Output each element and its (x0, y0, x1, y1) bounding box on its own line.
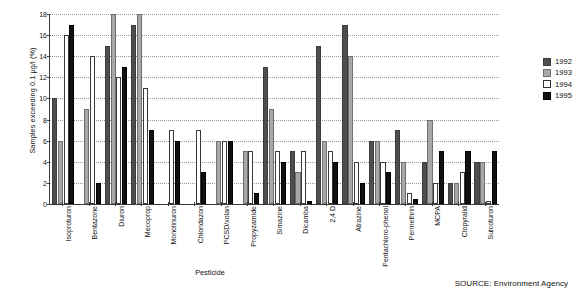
legend-label: 1992 (555, 57, 572, 66)
x-tick-label: Chloridazon (197, 206, 204, 243)
x-axis-title: Pesticide (0, 268, 420, 277)
legend-item-1992[interactable]: 1992 (543, 57, 572, 66)
plot-area: 024681012141618 (49, 14, 499, 205)
bar-1994 (460, 172, 465, 204)
x-label-slot: Mecoprop (128, 206, 154, 268)
y-tick-label: 16 (39, 32, 47, 39)
x-tick-mark (300, 202, 301, 206)
x-label-slot: Propyzamide (234, 206, 260, 268)
bar-1995 (254, 193, 259, 204)
bar-1994 (380, 162, 385, 204)
x-tick-mark (485, 202, 486, 206)
bar-group (182, 14, 208, 204)
bar-1992 (395, 130, 400, 204)
x-tick-label: Diuron (118, 206, 125, 227)
x-tick-mark (379, 202, 380, 206)
legend-swatch-icon (543, 92, 551, 100)
x-axis-labels: IsoproturonBentazoneDiuronMecopropMonoli… (49, 206, 498, 268)
x-label-slot: Bentazone (75, 206, 101, 268)
bar-1992 (474, 162, 479, 204)
bar-group (208, 14, 234, 204)
bar-group (129, 14, 155, 204)
bar-1995 (228, 141, 233, 204)
x-tick-label: Atrazine (355, 206, 362, 232)
x-label-slot: PCSD/xolan (207, 206, 233, 268)
bar-1993 (427, 120, 432, 204)
bar-1995 (386, 172, 391, 204)
bar-1992 (369, 141, 374, 204)
x-tick-mark (353, 202, 354, 206)
bar-groups (50, 14, 499, 204)
legend-item-1995[interactable]: 1995 (543, 91, 572, 100)
source-note: SOURCE: Environment Agency (455, 279, 568, 288)
bar-group (340, 14, 366, 204)
y-tick-label: 10 (39, 95, 47, 102)
bar-1994 (116, 77, 121, 204)
bar-1992 (342, 25, 347, 204)
bar-group (261, 14, 287, 204)
bar-group (103, 14, 129, 204)
x-tick-label: Propyzamide (250, 206, 257, 247)
x-label-slot: Monolinuron (155, 206, 181, 268)
bar-1992 (290, 151, 295, 204)
x-label-slot: Chloridazon (181, 206, 207, 268)
bar-group (288, 14, 314, 204)
bar-1993 (137, 14, 142, 204)
legend: 1992199319941995 (543, 57, 572, 100)
x-label-slot: Dicamba (287, 206, 313, 268)
x-tick-mark (221, 202, 222, 206)
legend-label: 1995 (555, 91, 572, 100)
x-tick-mark (168, 202, 169, 206)
y-tick-mark (47, 204, 50, 205)
legend-item-1993[interactable]: 1993 (543, 68, 572, 77)
x-tick-mark (458, 202, 459, 206)
x-tick-mark (432, 202, 433, 206)
bar-1994 (433, 183, 438, 204)
x-tick-label: Monolinuron (170, 206, 177, 245)
x-tick-mark (141, 202, 142, 206)
x-tick-label: Permethrin (408, 206, 415, 240)
x-tick-mark (326, 202, 327, 206)
bar-1994 (407, 193, 412, 204)
bar-1995 (413, 199, 418, 204)
x-tick-label: Isoproturon (65, 206, 72, 241)
legend-item-1994[interactable]: 1994 (543, 80, 572, 89)
x-label-slot: Permethrin (392, 206, 418, 268)
x-tick-label: Simazine (276, 206, 283, 235)
x-tick-mark (115, 202, 116, 206)
bar-1993 (243, 151, 248, 204)
y-tick-label: 12 (39, 74, 47, 81)
bar-1995 (492, 151, 497, 204)
bar-1992 (52, 98, 57, 204)
bar-1993 (375, 141, 380, 204)
bar-1995 (175, 141, 180, 204)
bar-1994 (248, 151, 253, 204)
legend-swatch-icon (543, 69, 551, 77)
x-tick-label: 2,4 D (329, 206, 336, 223)
x-tick-label: MCPA (434, 206, 441, 226)
x-label-slot: Clopyralid (445, 206, 471, 268)
x-label-slot: Pentachloro-phenol (366, 206, 392, 268)
x-label-slot: MCPA (419, 206, 445, 268)
bar-1994 (90, 56, 95, 204)
bar-1993 (454, 183, 459, 204)
bar-1993 (322, 141, 327, 204)
legend-label: 1993 (555, 68, 572, 77)
x-label-slot: Diuron (102, 206, 128, 268)
bar-1994 (169, 130, 174, 204)
bar-group (420, 14, 446, 204)
x-tick-mark (89, 202, 90, 206)
bar-1995 (465, 151, 470, 204)
bar-1995 (69, 25, 74, 204)
legend-label: 1994 (555, 80, 572, 89)
bar-group (446, 14, 472, 204)
bar-1993 (401, 162, 406, 204)
x-label-slot: 2,4 D (313, 206, 339, 268)
x-tick-mark (62, 202, 63, 206)
x-label-slot: Sulcoturon (472, 206, 498, 268)
bar-1995 (307, 201, 312, 204)
x-label-slot: Isoproturon (49, 206, 75, 268)
x-tick-mark (247, 202, 248, 206)
bar-group (393, 14, 419, 204)
bar-1995 (96, 183, 101, 204)
